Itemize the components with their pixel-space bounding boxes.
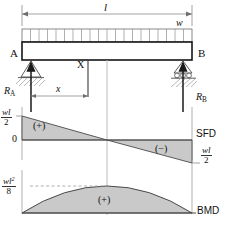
- reaction-arrow-right: [180, 63, 187, 112]
- sfd-right-peak-denominator: 2: [201, 156, 212, 165]
- sfd-title: SFD: [196, 129, 216, 139]
- bmd-positive-label: (+): [98, 195, 110, 205]
- beam-diagram-svg: [0, 0, 227, 225]
- support-right-label: B: [198, 48, 205, 59]
- reaction-left-label: RA: [4, 86, 15, 98]
- support-right-hatch: [171, 79, 197, 87]
- bmd-max-numerator-exponent: 2: [12, 175, 15, 182]
- sfd-plot: [16, 107, 200, 163]
- support-left-label: A: [10, 48, 18, 59]
- bmd-plot: [22, 163, 196, 214]
- section-marker-label: X: [77, 60, 84, 70]
- reaction-right-subscript: B: [202, 96, 207, 104]
- beam-body: [22, 42, 192, 60]
- sfd-right-peak-label: wl 2: [201, 146, 212, 165]
- bmd-max-numerator-base: wl: [3, 176, 12, 186]
- bmd-title: BMD: [197, 206, 219, 216]
- reaction-right-label: RB: [196, 92, 207, 104]
- figure-canvas: l w A B RA RB X x wl 2 0 (+) (−) SFD wl …: [0, 0, 227, 225]
- bmd-max-label: wl2 8: [2, 176, 16, 196]
- reaction-arrow-left: [28, 63, 35, 112]
- section-distance-label: x: [56, 84, 60, 94]
- span-arrow-right: [186, 12, 192, 17]
- sfd-positive-label: (+): [33, 121, 45, 131]
- sfd-negative-area: [107, 140, 192, 163]
- reaction-left-subscript: A: [10, 90, 15, 98]
- span-label: l: [104, 2, 107, 13]
- sfd-left-peak-label: wl 2: [1, 108, 12, 127]
- sfd-left-peak-denominator: 2: [1, 118, 12, 127]
- span-arrow-left: [22, 12, 28, 17]
- sfd-negative-label: (−): [155, 144, 167, 154]
- sfd-zero-label: 0: [12, 134, 17, 144]
- udl-label: w: [176, 18, 183, 28]
- bmd-max-denominator: 8: [2, 187, 16, 196]
